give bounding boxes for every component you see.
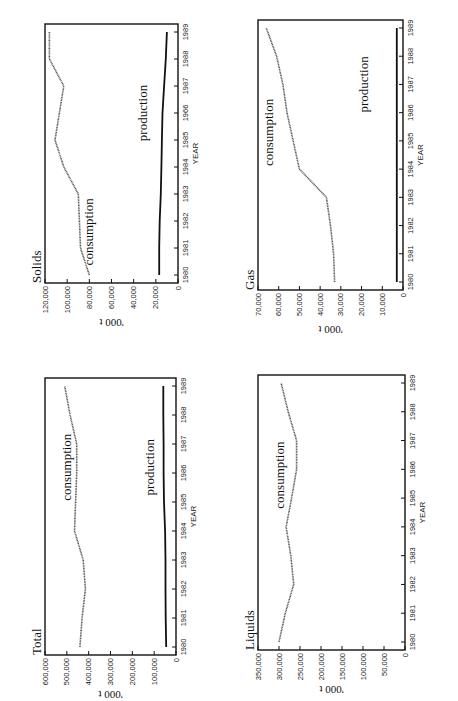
x-tick-label: 1986 [406, 104, 415, 121]
production-annotation: production [142, 439, 157, 496]
y-tick-label: 0 [399, 293, 408, 297]
y-axis-label: '000 t [319, 684, 343, 696]
x-tick-label: 1980 [406, 274, 415, 291]
x-tick-label: 1985 [408, 490, 417, 507]
plot-frame [258, 375, 405, 650]
chart-liquids: Liquids198019811982198319841985198619871… [242, 375, 427, 696]
chart-total: Total19801981198219831984198519861987198… [29, 378, 198, 701]
plot-frame [45, 24, 178, 283]
x-tick-label: 1985 [179, 494, 188, 511]
x-tick-label: 1986 [179, 465, 188, 482]
y-tick-label: 50,000 [295, 293, 304, 316]
chart-title: Liquids [242, 610, 257, 650]
x-tick-label: 1987 [181, 78, 190, 95]
consumption-line [266, 28, 334, 282]
x-tick-label: 1988 [179, 407, 188, 424]
consumption-annotation: consumption [261, 98, 276, 166]
y-tick-label: 20,000 [151, 286, 160, 309]
page-canvas: Total19801981198219831984198519861987198… [0, 0, 458, 701]
y-tick-label: 70,000 [254, 293, 263, 316]
y-tick-label: 150,000 [338, 653, 347, 680]
x-axis-label: YEAR [418, 501, 427, 523]
y-tick-label: 50,000 [380, 653, 389, 676]
x-tick-label: 1987 [179, 436, 188, 453]
y-tick-label: 300,000 [275, 653, 284, 680]
y-tick-label: 0 [401, 653, 410, 657]
y-axis-label: '000 t [99, 317, 123, 329]
plot-frame [258, 20, 403, 290]
x-tick-label: 1985 [181, 132, 190, 149]
x-tick-label: 1982 [179, 581, 188, 598]
x-tick-label: 1980 [181, 267, 190, 284]
y-tick-label: 30,000 [336, 293, 345, 316]
y-tick-label: 60,000 [107, 286, 116, 309]
consumption-line [279, 383, 297, 642]
y-tick-label: 120,000 [41, 286, 50, 313]
x-tick-label: 1983 [181, 186, 190, 203]
y-tick-label: 80,000 [85, 286, 94, 309]
x-axis-label: YEAR [416, 144, 425, 166]
y-tick-label: 40,000 [316, 293, 325, 316]
x-tick-label: 1989 [408, 375, 417, 392]
consumption-annotation: consumption [81, 198, 96, 266]
x-tick-label: 1966 [181, 105, 190, 122]
x-tick-label: 1989 [179, 378, 188, 395]
chart-gas: Gas1980198119821983198419851986198719881… [242, 20, 425, 336]
y-tick-label: 40,000 [129, 286, 138, 309]
y-tick-label: 10,000 [378, 293, 387, 316]
production-annotation: production [356, 56, 371, 113]
x-tick-label: 1981 [181, 240, 190, 257]
x-tick-label: 1981 [179, 610, 188, 627]
consumption-annotation: consumption [272, 441, 287, 509]
x-tick-label: 1984 [181, 159, 190, 176]
y-tick-label: 100,000 [359, 653, 368, 680]
plot-frame [45, 378, 176, 655]
x-tick-label: 1984 [406, 161, 415, 178]
x-tick-label: 1984 [179, 523, 188, 540]
x-tick-label: 1988 [408, 403, 417, 420]
x-tick-label: 1988 [406, 48, 415, 65]
x-tick-label: 1982 [406, 217, 415, 234]
y-axis-label: '000 t [98, 689, 122, 701]
y-tick-label: 60,000 [274, 293, 283, 316]
y-tick-label: 300,000 [106, 658, 115, 685]
consumption-line [65, 386, 86, 647]
x-tick-label: 1984 [408, 519, 417, 536]
x-tick-label: 1987 [408, 432, 417, 449]
y-tick-label: 250,000 [296, 653, 305, 680]
y-tick-label: 600,000 [41, 658, 50, 685]
y-tick-label: 20,000 [357, 293, 366, 316]
y-tick-label: 400,000 [84, 658, 93, 685]
x-tick-label: 1980 [179, 639, 188, 656]
x-axis-label: YEAR [191, 142, 200, 164]
x-tick-label: 1989 [181, 24, 190, 41]
y-tick-label: 0 [172, 658, 181, 662]
y-tick-label: 200,000 [128, 658, 137, 685]
chart-title: Total [29, 628, 44, 655]
y-tick-label: 100,000 [63, 286, 72, 313]
y-tick-label: 500,000 [62, 658, 71, 685]
x-tick-label: 1989 [406, 20, 415, 37]
x-tick-label: 1983 [406, 189, 415, 206]
y-axis-label: '000 t [318, 324, 342, 336]
y-tick-label: 350,000 [254, 653, 263, 680]
x-tick-label: 1986 [408, 461, 417, 478]
chart-solids: Solids1980198119821983198419851966198719… [29, 24, 200, 329]
x-tick-label: 1981 [408, 605, 417, 622]
x-tick-label: 1982 [181, 213, 190, 230]
x-tick-label: 1988 [181, 51, 190, 68]
chart-title: Gas [242, 270, 257, 290]
y-tick-label: 200,000 [317, 653, 326, 680]
x-tick-label: 1987 [406, 76, 415, 93]
x-tick-label: 1981 [406, 245, 415, 262]
x-tick-label: 1982 [408, 576, 417, 593]
y-tick-label: 0 [174, 286, 183, 290]
production-annotation: production [135, 84, 150, 141]
x-tick-label: 1980 [408, 634, 417, 651]
x-tick-label: 1985 [406, 133, 415, 150]
consumption-annotation: consumption [59, 433, 74, 501]
x-tick-label: 1983 [408, 547, 417, 564]
x-axis-label: YEAR [189, 505, 198, 527]
x-tick-label: 1983 [179, 552, 188, 569]
chart-title: Solids [29, 250, 44, 283]
